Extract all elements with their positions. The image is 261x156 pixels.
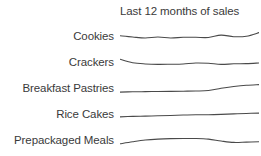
table-grid: Last 12 months of sales Cookies Crackers… (0, 0, 261, 154)
sparkline-cell-prepackaged-meals[interactable] (118, 128, 261, 154)
header-label-spacer (0, 0, 118, 24)
sparkline-prepackaged-meals (120, 131, 259, 151)
row-label-cookies: Cookies (0, 24, 118, 50)
sparkline-cell-crackers[interactable] (118, 50, 261, 76)
sparkline-column-header: Last 12 months of sales (118, 0, 261, 24)
row-label-breakfast-pastries: Breakfast Pastries (0, 76, 118, 102)
sparkline-crackers (120, 53, 259, 73)
row-label-prepackaged-meals: Prepackaged Meals (0, 128, 118, 154)
sparkline-cell-rice-cakes[interactable] (118, 102, 261, 128)
sparkline-cookies (120, 27, 259, 47)
sparkline-cell-cookies[interactable] (118, 24, 261, 50)
sparkline-breakfast-pastries (120, 79, 259, 99)
sparkline-table: Last 12 months of sales Cookies Crackers… (0, 0, 261, 156)
sparkline-rice-cakes (120, 105, 259, 125)
sparkline-cell-breakfast-pastries[interactable] (118, 76, 261, 102)
row-label-rice-cakes: Rice Cakes (0, 102, 118, 128)
row-label-crackers: Crackers (0, 50, 118, 76)
